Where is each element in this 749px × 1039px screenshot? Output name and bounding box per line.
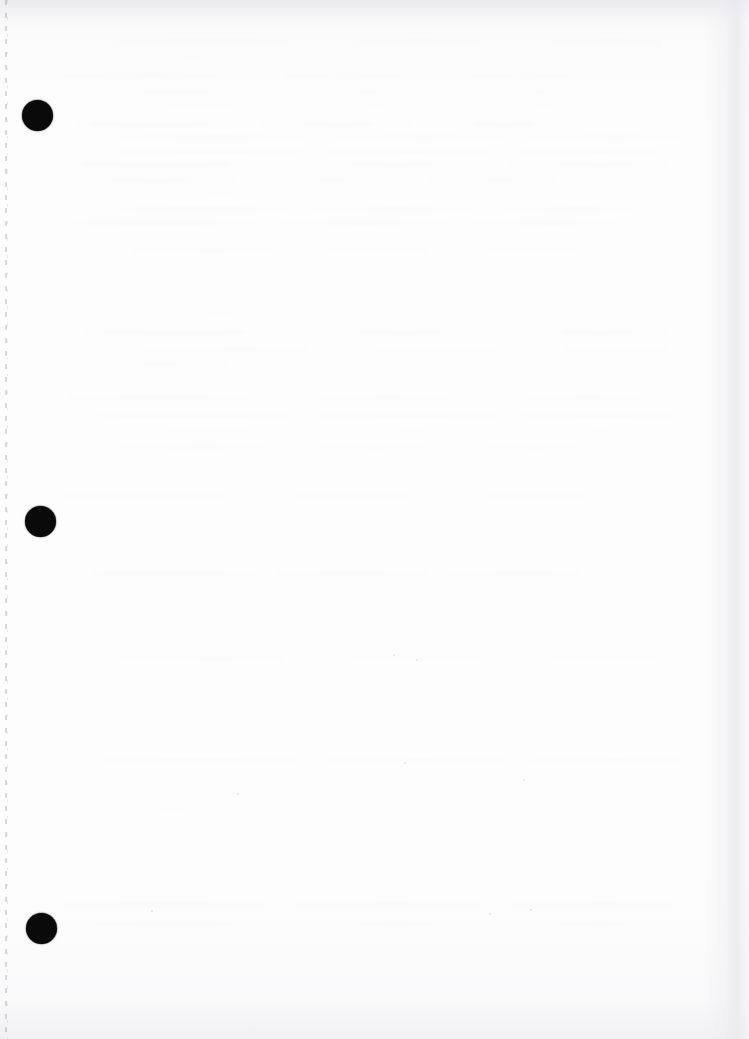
page-speck-3 bbox=[237, 793, 239, 795]
hole-mark-3 bbox=[26, 913, 57, 944]
page-speck-7 bbox=[530, 909, 532, 911]
hole-mark-2 bbox=[25, 506, 56, 537]
page-speck-1 bbox=[393, 654, 395, 656]
paper-grain-texture bbox=[0, 0, 749, 1039]
hole-mark-1 bbox=[22, 100, 53, 131]
page-speck-6 bbox=[489, 913, 491, 915]
scan-edge-shadow-bottom bbox=[0, 969, 749, 1039]
page-speck-2 bbox=[416, 659, 418, 661]
scanned-page bbox=[0, 0, 749, 1039]
page-speck-4 bbox=[404, 762, 406, 764]
dashed-binding-guide-line-secondary bbox=[7, 0, 8, 1039]
scan-edge-shadow-top bbox=[0, 0, 749, 34]
page-speck-8 bbox=[151, 910, 153, 912]
scan-edge-shadow-right bbox=[703, 0, 749, 1039]
page-speck-5 bbox=[523, 779, 525, 781]
